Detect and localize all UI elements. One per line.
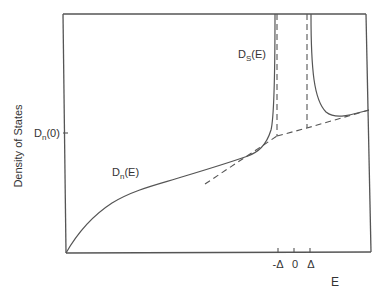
normal-dos-label: Dn(E) — [112, 166, 139, 181]
normal-dos-extrapolation — [205, 110, 369, 184]
x-axis-label: E — [331, 275, 339, 289]
x-tick-label-minus-delta: -Δ — [272, 258, 284, 270]
y-tick-label: Dn(0) — [34, 127, 60, 142]
superconducting-dos-right-branch — [311, 14, 369, 116]
right-border — [366, 14, 371, 252]
plot-frame — [63, 14, 371, 253]
x-tick-label-delta: Δ — [307, 258, 315, 270]
x-tick-label-zero: 0 — [292, 258, 298, 270]
x-axis — [66, 252, 371, 253]
y-axis-label: Density of States — [12, 104, 24, 188]
superconducting-dos-label: DS(E) — [238, 48, 266, 63]
dos-diagram: Dn(0) -Δ 0 Δ E Density of States DS(E) D… — [0, 0, 379, 292]
